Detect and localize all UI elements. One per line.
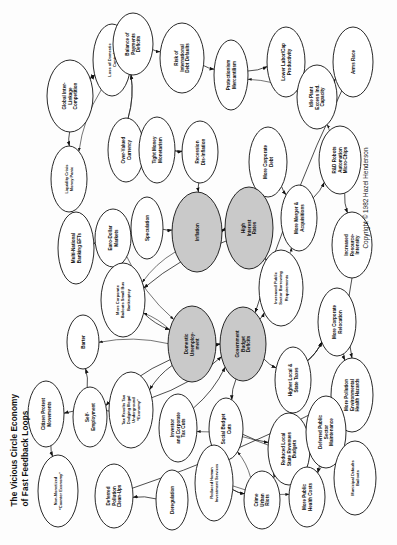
graph-node[interactable]: Deregulation <box>156 470 188 530</box>
node-label: DeferredPollutionClean-Ups <box>106 484 123 507</box>
node-label: Multi-NationalBanking EFTs <box>71 232 82 263</box>
graph-node[interactable]: More CorporateRelocation <box>318 288 356 356</box>
edge-n4-to-n5 <box>204 66 215 70</box>
graph-node[interactable]: Multi-NationalBanking EFTs <box>58 212 94 284</box>
node-label: Citizen ProtestMovements <box>41 397 52 430</box>
graph-node[interactable]: Increased PublicSector BorrowingRequirem… <box>259 250 303 326</box>
node-label: Inflation <box>195 223 200 241</box>
edge-n27-to-n28 <box>264 359 276 368</box>
graph-node[interactable]: HighInterestRates <box>225 187 273 269</box>
graph-node[interactable]: Idle PlantExcess Ind.Capacity <box>297 65 337 129</box>
graph-node[interactable]: More PublicHealth Costs <box>289 467 325 527</box>
node-label: Idle PlantExcess Ind.Capacity <box>309 84 326 109</box>
graph-node[interactable]: More CorporateDebt <box>249 127 287 197</box>
node-label: Reduced HumanInvestment Services <box>209 463 219 502</box>
edge-n39-to-n38 <box>133 497 156 499</box>
edge-n27-to-n23 <box>260 313 264 319</box>
node-label: Liquidity CrisisMoney Panic <box>64 164 74 194</box>
graph-node[interactable]: Municipal DefaultsBailouts <box>334 441 376 515</box>
secondary-edge <box>308 342 322 361</box>
page-title: The Vicious Circle Economy of Fast Feedb… <box>10 379 31 507</box>
edge-n30-to-n37 <box>51 446 53 457</box>
edge-n22-to-n26 <box>144 313 170 330</box>
graph-node[interactable]: Global Inter-LinkageCompetition <box>47 60 93 132</box>
graph-node[interactable]: ProtectionismMercantilism <box>214 40 248 110</box>
graph-node[interactable]: Liquidity CrisisMoney Panic <box>51 146 87 212</box>
node-label: R&D RobotsAutomationMicro-Chips <box>332 146 349 173</box>
edge-n40-to-n41 <box>233 490 245 494</box>
edge-n2-to-n1 <box>90 75 95 79</box>
edge-n28-to-n24 <box>308 342 322 361</box>
graph-node[interactable]: CrimeUrbanRiots <box>244 471 280 529</box>
node-label: Barter <box>81 335 86 349</box>
node-label: Tight MoneyMonetarism <box>152 136 163 163</box>
node-label: Over-ValuedCurrency <box>121 136 132 163</box>
graph-node[interactable]: Citizen ProtestMovements <box>28 381 64 447</box>
edge-n5-to-n6 <box>248 67 267 72</box>
graph-node[interactable]: Tight MoneyMonetarism <box>139 117 175 183</box>
graph-node[interactable]: Euro-DollarMarkets <box>95 209 131 267</box>
secondary-edge <box>327 125 329 131</box>
secondary-edge <box>144 313 170 330</box>
node-label: CrimeUrbanRiots <box>254 493 271 507</box>
graph-node[interactable]: DomesticUnemploy-ment <box>168 306 216 382</box>
copyright-notice: Copyright © 1982 Hazel Henderson <box>362 99 369 249</box>
edge-n27-to-n34 <box>232 379 236 400</box>
graph-node[interactable]: R&D RobotsAutomationMicro-Chips <box>319 126 361 194</box>
secondary-edge <box>290 248 291 254</box>
graph-node[interactable]: Risk ofInternationalDebt Defaults <box>160 23 204 93</box>
graph-node[interactable]: Arms Race <box>333 27 373 97</box>
graph-node[interactable]: More CorporateBailouts Small BusBankrupt… <box>101 263 145 337</box>
edge-n1-to-n9 <box>69 132 70 146</box>
node-label: ProtectionismMercantilism <box>226 60 237 91</box>
edge-n12-to-n18 <box>198 183 199 192</box>
diagram-canvas: Global Inter-LinkageCompetitionLoss of D… <box>0 0 397 545</box>
graph-node[interactable]: Self-Employment <box>73 387 107 447</box>
node-label: More PollutionEnvironmentalHealth Hazard… <box>344 378 361 412</box>
graph-node[interactable]: Speculation <box>131 197 163 259</box>
edge-n31-to-n25 <box>86 369 88 388</box>
graph-node[interactable]: Non-Monetized“Counter Economy” <box>38 455 78 527</box>
nodes-layer: Global Inter-LinkageCompetitionLoss of D… <box>28 13 376 530</box>
page-title-line-1: The Vicious Circle Economy <box>10 379 21 507</box>
graph-node[interactable]: Inflation <box>172 192 222 272</box>
secondary-edge <box>238 452 251 478</box>
edge-n24-to-n29 <box>344 354 345 360</box>
graph-node[interactable]: Higher Local &State Taxes <box>275 347 311 413</box>
node-label: RecessionDis-Inflation <box>195 139 206 166</box>
edge-n13-to-n20 <box>282 187 287 195</box>
edge-n34-to-n35 <box>243 434 269 442</box>
secondary-edge <box>175 151 182 152</box>
node-label: Arms Race <box>351 50 356 74</box>
edge-n14-to-n21 <box>345 193 348 213</box>
edge-n26-to-n32 <box>150 365 173 389</box>
node-label: Increased PublicSector BorrowingRequirem… <box>273 271 288 305</box>
graph-node[interactable]: Reduced HumanInvestment Services <box>195 445 233 521</box>
edge-n20-to-n14 <box>313 182 324 197</box>
node-label: Deregulation <box>170 486 175 514</box>
secondary-edge <box>99 339 168 344</box>
graph-node[interactable]: More Merger &Acquisitions <box>281 185 317 251</box>
graph-node[interactable]: Tax Revolts TaxDodging IllegalUndergroun… <box>109 372 153 448</box>
edge-n3-to-n4 <box>153 50 161 52</box>
secondary-edge <box>308 342 322 361</box>
node-label: IncreasedResource-Intensity <box>344 233 361 256</box>
diagram-svg-wrapper: Global Inter-LinkageCompetitionLoss of D… <box>0 0 397 545</box>
page-title-line-2: of Fast Feedback Loops <box>20 379 31 507</box>
graph-node[interactable]: Balance ofPaymentsDeficits <box>113 13 153 75</box>
node-label: Speculation <box>145 215 150 241</box>
node-label: More PublicHealth Costs <box>302 483 313 512</box>
node-label: More Merger &Acquisitions <box>294 201 305 234</box>
graph-node[interactable]: GovernmentBudgetDeficits <box>220 307 266 381</box>
node-label: Higher Local &State Taxes <box>288 363 299 396</box>
edge-n17-to-n18 <box>163 229 172 230</box>
graph-node[interactable]: RecessionDis-Inflation <box>182 121 218 183</box>
graph-node[interactable]: Investorand CorporateTax Cuts <box>159 394 197 462</box>
graph-node[interactable]: Barter <box>67 315 99 369</box>
node-label: Non-Monetized“Counter Economy” <box>53 472 63 510</box>
graph-node[interactable]: DeferredPollutionClean-Ups <box>95 464 133 528</box>
causal-loop-diagram: Global Inter-LinkageCompetitionLoss of D… <box>0 0 397 545</box>
